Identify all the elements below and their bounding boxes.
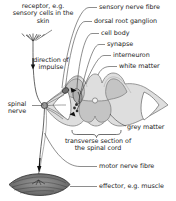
reflex-arc-diagram: receptor, e.g. sensory cells in the skin… xyxy=(0,0,176,201)
label-motor-nerve-fibre: motor nerve fibre xyxy=(99,163,154,170)
central-canal xyxy=(92,98,97,103)
motor-nerve-fibre-path-2 xyxy=(40,109,47,173)
label-dorsal-root-ganglion: dorsal root ganglion xyxy=(94,18,157,25)
label-grey-matter: grey matter xyxy=(127,124,164,131)
impulse-arrowhead-motor xyxy=(37,166,41,172)
label-cell-body: cell body xyxy=(101,30,129,37)
label-white-matter: white matter xyxy=(119,63,160,70)
label-spinal-nerve: spinal nerve xyxy=(2,101,32,116)
label-transverse-section: transverse section of the spinal cord xyxy=(62,138,134,153)
label-effector: effector, e.g. muscle xyxy=(99,183,164,190)
label-sensory-nerve-fibre: sensory nerve fibre xyxy=(99,4,160,11)
label-direction-of-impulse: direction of impulse xyxy=(31,57,71,72)
receptor-shape xyxy=(22,34,45,48)
effector-shape xyxy=(9,174,70,196)
label-receptor: receptor, e.g. sensory cells in the skin xyxy=(10,3,76,25)
label-synapse: synapse xyxy=(107,41,133,48)
label-interneuron: interneuron xyxy=(113,52,150,59)
